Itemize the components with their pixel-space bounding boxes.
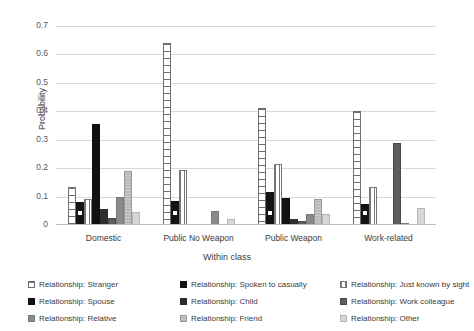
legend-label: Relationship: Relative xyxy=(39,314,116,324)
x-axis-baseline xyxy=(56,224,436,225)
bar[interactable] xyxy=(211,211,219,225)
legend-item[interactable]: Relationship: Stranger xyxy=(28,280,180,290)
legend-item[interactable]: Relationship: Friend xyxy=(180,314,340,324)
bar[interactable] xyxy=(124,171,132,225)
y-axis-tick-label: 0 xyxy=(2,219,48,229)
x-axis-category-label: Public Weapon xyxy=(265,233,322,243)
bar-group: Work-related xyxy=(341,26,436,225)
bar[interactable] xyxy=(84,199,92,225)
bar[interactable] xyxy=(353,111,361,225)
legend-item[interactable]: Relationship: Spouse xyxy=(28,297,180,307)
legend-label: Relationship: Child xyxy=(191,297,258,307)
legend-item[interactable]: Relationship: Work colleague xyxy=(340,297,474,307)
bar[interactable] xyxy=(369,187,377,225)
y-axis-tick-label: 0.7 xyxy=(2,20,48,30)
bar[interactable] xyxy=(100,209,108,225)
bar[interactable] xyxy=(163,43,171,225)
x-axis-category-label: Domestic xyxy=(86,233,121,243)
bars xyxy=(246,26,341,225)
legend-item[interactable]: Relationship: Other xyxy=(340,314,474,324)
bar[interactable] xyxy=(258,108,266,225)
x-axis-title: Within class xyxy=(0,252,454,262)
bar[interactable] xyxy=(266,192,274,225)
bar[interactable] xyxy=(417,208,425,225)
legend-label: Relationship: Spouse xyxy=(39,297,115,307)
bar[interactable] xyxy=(92,124,100,225)
legend-item[interactable]: Relationship: Child xyxy=(180,297,340,307)
bar[interactable] xyxy=(393,143,401,225)
legend-swatch-icon xyxy=(340,298,347,305)
bars xyxy=(56,26,151,225)
legend-item[interactable]: Relationship: Spoken to casually xyxy=(180,280,340,290)
legend-swatch-icon xyxy=(180,281,187,288)
legend-swatch-icon xyxy=(180,315,187,322)
legend-swatch-icon xyxy=(340,315,347,322)
bar[interactable] xyxy=(361,204,369,225)
legend-swatch-icon xyxy=(340,281,347,288)
bar[interactable] xyxy=(274,164,282,225)
y-axis-tick-label: 0.1 xyxy=(2,191,48,201)
bar-group: Public No Weapon xyxy=(151,26,246,225)
legend-label: Relationship: Just known by sight xyxy=(351,280,469,290)
legend-label: Relationship: Stranger xyxy=(39,280,118,290)
y-axis-tick-label: 0.2 xyxy=(2,162,48,172)
bar[interactable] xyxy=(68,187,76,225)
x-axis-category-label: Work-related xyxy=(364,233,413,243)
bar[interactable] xyxy=(171,201,179,225)
legend-label: Relationship: Spoken to casually xyxy=(191,280,307,290)
legend-swatch-icon xyxy=(28,315,35,322)
legend-swatch-icon xyxy=(28,281,35,288)
bar[interactable] xyxy=(76,202,84,225)
legend-label: Relationship: Work colleague xyxy=(351,297,454,307)
y-axis-tick-label: 0.6 xyxy=(2,48,48,58)
legend-swatch-icon xyxy=(180,298,187,305)
x-axis-category-label: Public No Weapon xyxy=(163,233,233,243)
bar-group: Public Weapon xyxy=(246,26,341,225)
bars xyxy=(151,26,246,225)
y-axis-title: Probability xyxy=(37,64,47,154)
legend-label: Relationship: Friend xyxy=(191,314,262,324)
bar[interactable] xyxy=(179,170,187,225)
legend-item[interactable]: Relationship: Relative xyxy=(28,314,180,324)
plot-area: DomesticPublic No WeaponPublic WeaponWor… xyxy=(56,26,436,225)
bar[interactable] xyxy=(314,199,322,225)
bar[interactable] xyxy=(116,197,124,225)
legend-swatch-icon xyxy=(28,298,35,305)
chart-legend: Relationship: StrangerRelationship: Spok… xyxy=(28,276,448,327)
bars xyxy=(341,26,436,225)
bar[interactable] xyxy=(282,198,290,225)
legend-label: Relationship: Other xyxy=(351,314,419,324)
legend-item[interactable]: Relationship: Just known by sight xyxy=(340,280,474,290)
bar-group: Domestic xyxy=(56,26,151,225)
